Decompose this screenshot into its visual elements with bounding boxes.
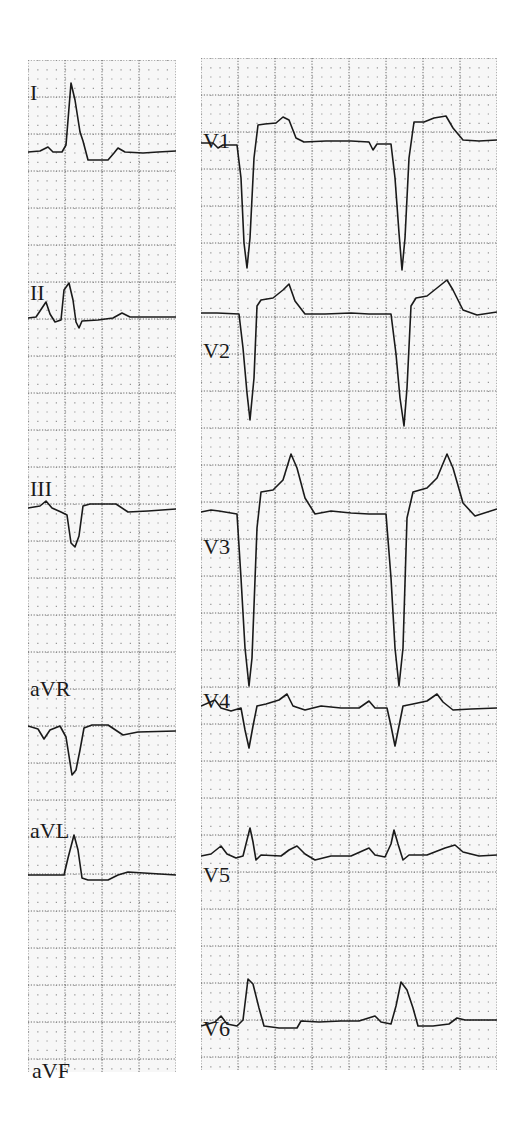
trace-lead-I xyxy=(28,83,176,160)
ecg-strip-precordial-leads: V1 V2 V3 V4 V5 V6 xyxy=(201,58,497,1070)
lead-label-V2: V2 xyxy=(203,340,230,362)
trace-lead-II xyxy=(28,283,176,328)
lead-label-aVR: aVR xyxy=(30,678,70,700)
lead-label-V1: V1 xyxy=(203,130,230,152)
lead-label-I: I xyxy=(30,82,37,104)
ecg-traces-precordial xyxy=(201,58,497,1070)
trace-lead-aVR xyxy=(28,725,176,775)
ecg-strip-limb-leads: I II III aVR aVL aVF xyxy=(28,60,176,1072)
trace-lead-V1 xyxy=(201,116,497,270)
trace-lead-V3 xyxy=(201,454,497,686)
lead-label-V6: V6 xyxy=(203,1018,230,1040)
lead-label-V3: V3 xyxy=(203,536,230,558)
trace-lead-V4 xyxy=(201,694,497,748)
lead-label-II: II xyxy=(30,282,45,304)
trace-lead-V2 xyxy=(201,280,497,426)
trace-lead-III xyxy=(28,501,176,547)
ecg-traces-limb xyxy=(28,60,176,1072)
lead-label-V5: V5 xyxy=(203,864,230,886)
lead-label-III: III xyxy=(30,478,52,500)
lead-label-aVF: aVF xyxy=(32,1060,70,1082)
lead-label-V4: V4 xyxy=(203,690,230,712)
trace-lead-V6 xyxy=(201,979,497,1028)
lead-label-aVL: aVL xyxy=(30,820,69,842)
trace-lead-V5 xyxy=(201,828,497,860)
